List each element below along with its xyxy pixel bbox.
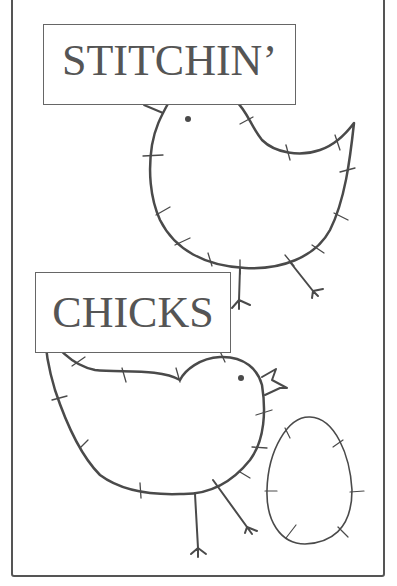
chick-bottom-icon <box>45 331 287 557</box>
title-label-box-top: STITCHIN’ <box>43 24 296 105</box>
title-line-1: STITCHIN’ <box>62 39 277 83</box>
title-line-2: CHICKS <box>52 291 213 335</box>
title-label-box-bottom: CHICKS <box>35 272 231 353</box>
egg-icon <box>265 417 364 544</box>
